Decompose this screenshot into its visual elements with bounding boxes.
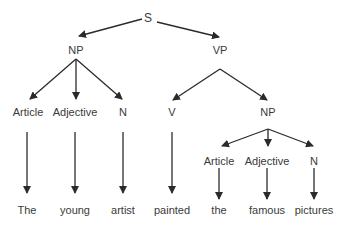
node-adjective-1: Adjective: [53, 107, 98, 118]
word-the-2: the: [211, 205, 226, 216]
word-painted: painted: [154, 205, 190, 216]
node-adjective-2: Adjective: [245, 156, 290, 167]
node-n-2: N: [310, 156, 318, 167]
arrow-edge: [268, 129, 313, 146]
node-s: S: [144, 12, 152, 24]
arrow-edge: [157, 22, 219, 37]
node-np-subject: NP: [68, 45, 83, 56]
arrow-edge: [220, 69, 267, 100]
node-vp: VP: [213, 45, 228, 56]
node-n-1: N: [119, 107, 127, 118]
node-article-1: Article: [13, 107, 44, 118]
node-article-2: Article: [204, 156, 235, 167]
node-v: V: [168, 107, 175, 118]
arrow-edge: [79, 19, 142, 36]
word-famous: famous: [249, 205, 285, 216]
parse-tree-diagram: S NP VP Article Adjective N V NP Article…: [0, 0, 340, 225]
arrow-edge: [173, 69, 220, 100]
arrow-edge: [222, 129, 268, 146]
arrow-edge: [30, 59, 76, 99]
word-the: The: [18, 205, 37, 216]
arrow-edge: [76, 59, 122, 99]
word-pictures: pictures: [295, 205, 334, 216]
word-young: young: [60, 205, 90, 216]
node-np-object: NP: [260, 107, 275, 118]
word-artist: artist: [111, 205, 135, 216]
